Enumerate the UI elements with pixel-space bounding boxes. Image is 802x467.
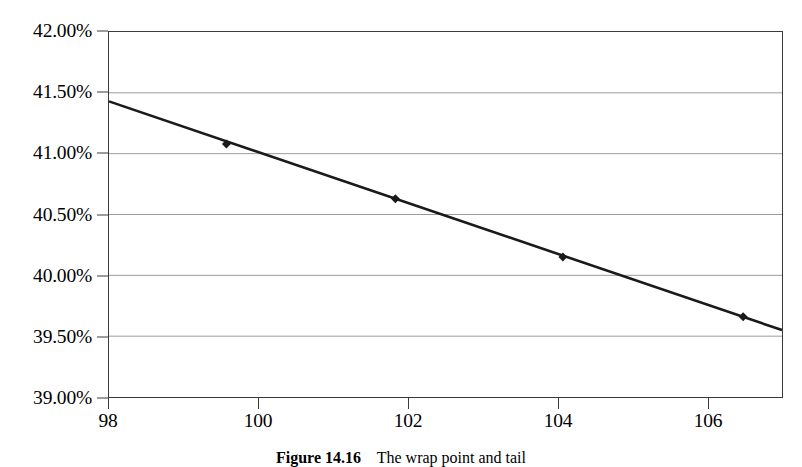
x-axis: 98100102104106 (0, 398, 802, 438)
figure-caption: Figure 14.16 The wrap point and tail (0, 449, 802, 467)
x-tick-label: 98 (98, 410, 117, 432)
data-series-layer (109, 32, 782, 397)
y-tick-label: 41.00% (33, 142, 92, 164)
x-tick-label: 100 (244, 410, 273, 432)
y-tick-mark (97, 275, 108, 276)
x-tick-mark (558, 398, 559, 409)
y-axis: 39.00%39.50%40.00%40.50%41.00%41.50%42.0… (0, 0, 108, 467)
caption-number: Figure 14.16 (276, 449, 361, 466)
y-tick-mark (97, 336, 108, 337)
x-tick-label: 106 (694, 410, 723, 432)
y-tick-mark (97, 153, 108, 154)
series-line (109, 101, 782, 330)
y-tick-label: 42.00% (33, 20, 92, 42)
y-tick-label: 39.50% (33, 326, 92, 348)
data-point-marker (739, 312, 748, 321)
chart-figure: 39.00%39.50%40.00%40.50%41.00%41.50%42.0… (0, 0, 802, 467)
caption-text: The wrap point and tail (377, 449, 526, 466)
x-tick-mark (408, 398, 409, 409)
y-tick-label: 40.00% (33, 265, 92, 287)
x-tick-label: 102 (394, 410, 423, 432)
caption-spacer (365, 449, 373, 466)
y-tick-mark (97, 31, 108, 32)
plot-area (108, 31, 783, 398)
x-tick-mark (708, 398, 709, 409)
x-tick-label: 104 (544, 410, 573, 432)
y-tick-mark (97, 92, 108, 93)
x-tick-mark (258, 398, 259, 409)
data-point-marker (391, 194, 400, 203)
y-tick-label: 40.50% (33, 204, 92, 226)
y-tick-mark (97, 214, 108, 215)
y-tick-label: 41.50% (33, 81, 92, 103)
x-tick-mark (108, 398, 109, 409)
